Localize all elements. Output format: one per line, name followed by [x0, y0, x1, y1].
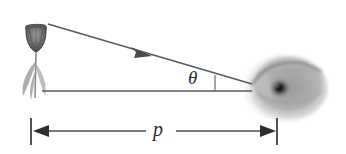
angle-label-theta: θ: [188, 68, 197, 87]
eye-graphic: [242, 54, 328, 122]
chief-ray: [48, 24, 252, 84]
diagram-canvas: [0, 0, 346, 154]
flower-graphic: [23, 24, 47, 100]
distance-label-p: p: [153, 119, 163, 139]
optics-ray-diagram: θ p: [0, 0, 346, 154]
